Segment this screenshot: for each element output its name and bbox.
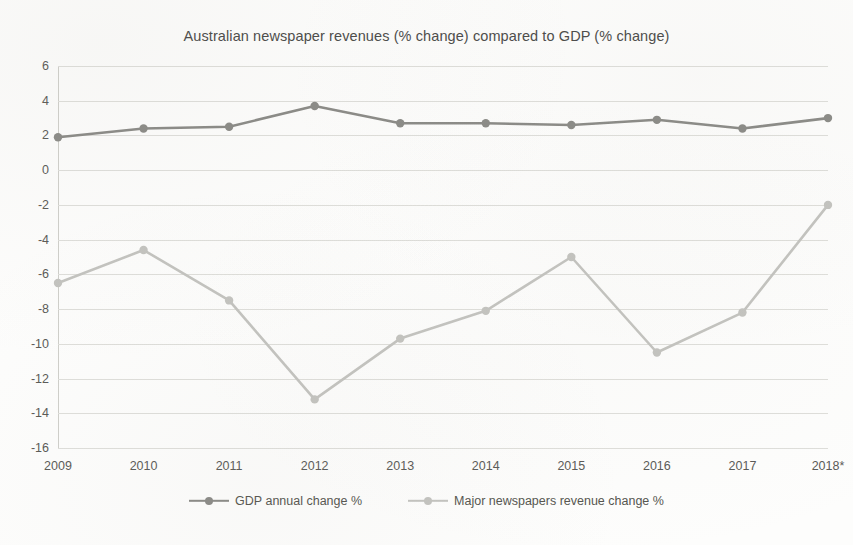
legend-swatch: [408, 495, 448, 507]
legend-marker-dot: [205, 497, 213, 505]
data-point: [396, 334, 404, 342]
chart-container: Australian newspaper revenues (% change)…: [0, 0, 853, 545]
x-axis-tick-label: 2018*: [812, 459, 845, 473]
gridline: [58, 448, 828, 449]
y-axis-tick-label: -14: [31, 406, 49, 420]
x-axis-tick-label: 2009: [44, 459, 72, 473]
series-1: [54, 102, 832, 142]
legend-item[interactable]: Major newspapers revenue change %: [408, 494, 664, 508]
x-axis-tick-label: 2011: [216, 459, 243, 473]
x-axis-tick-label: 2017: [729, 459, 757, 473]
y-axis-tick-label: -12: [31, 372, 49, 386]
series-line: [58, 106, 828, 137]
y-axis-tick-label: -4: [38, 233, 49, 247]
x-axis-tick-label: 2016: [643, 459, 671, 473]
series-layer: [58, 66, 828, 448]
data-point: [482, 307, 490, 315]
data-point: [225, 296, 233, 304]
data-point: [653, 116, 661, 124]
y-axis-tick-label: 2: [42, 128, 49, 142]
data-point: [139, 246, 147, 254]
legend-marker-dot: [424, 497, 432, 505]
y-axis-tick-label: -16: [31, 441, 49, 455]
plot-area: 6420-2-4-6-8-10-12-14-16 200920102011201…: [58, 66, 828, 448]
data-point: [653, 348, 661, 356]
y-axis-tick-label: -10: [31, 337, 49, 351]
legend-item[interactable]: GDP annual change %: [189, 494, 362, 508]
series-line: [58, 205, 828, 399]
x-axis-tick-label: 2014: [472, 459, 500, 473]
y-axis-tick-label: -6: [38, 267, 49, 281]
data-point: [225, 123, 233, 131]
data-point: [139, 124, 147, 132]
y-axis-tick-label: -8: [38, 302, 49, 316]
y-axis-tick-label: 4: [42, 94, 49, 108]
y-axis-tick-label: 6: [42, 59, 49, 73]
data-point: [738, 308, 746, 316]
legend-swatch: [189, 495, 229, 507]
data-point: [738, 124, 746, 132]
legend-label: GDP annual change %: [235, 494, 362, 508]
data-point: [567, 121, 575, 129]
data-point: [310, 395, 318, 403]
data-point: [396, 119, 404, 127]
data-point: [310, 102, 318, 110]
y-axis-tick-label: 0: [42, 163, 49, 177]
data-point: [567, 253, 575, 261]
chart-legend: GDP annual change %Major newspapers reve…: [0, 494, 853, 508]
data-point: [54, 133, 62, 141]
y-axis-tick-label: -2: [38, 198, 49, 212]
data-point: [482, 119, 490, 127]
x-axis-tick-label: 2015: [557, 459, 585, 473]
x-axis-tick-label: 2013: [386, 459, 414, 473]
series-2: [54, 201, 832, 404]
data-point: [824, 114, 832, 122]
x-axis-tick-label: 2010: [130, 459, 158, 473]
x-axis-tick-label: 2012: [301, 459, 329, 473]
data-point: [54, 279, 62, 287]
chart-title: Australian newspaper revenues (% change)…: [0, 28, 853, 44]
legend-label: Major newspapers revenue change %: [454, 494, 664, 508]
data-point: [824, 201, 832, 209]
